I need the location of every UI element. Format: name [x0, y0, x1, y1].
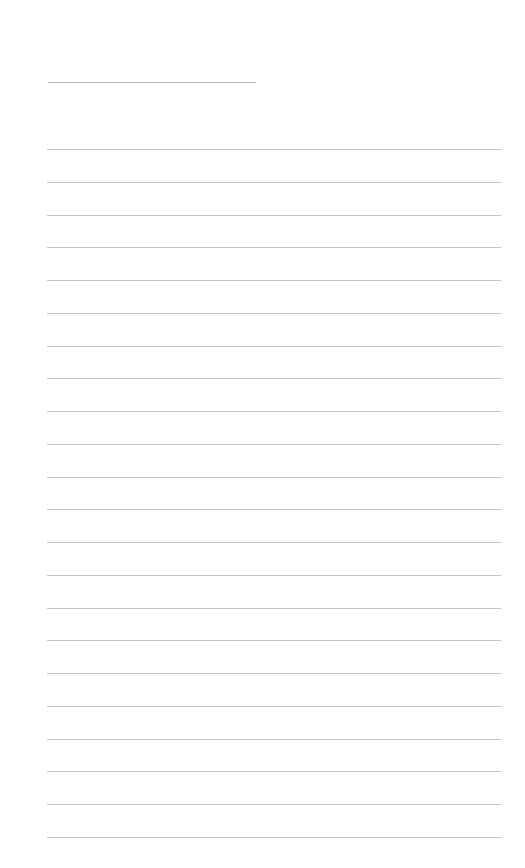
ruled-line [47, 247, 501, 280]
ruled-line [47, 640, 501, 673]
ruled-line [47, 182, 501, 215]
ruled-line [47, 509, 501, 542]
ruled-line [47, 215, 501, 248]
ruled-line [47, 804, 501, 837]
ruled-line [47, 739, 501, 772]
ruled-line [47, 313, 501, 346]
ruled-lines-area [47, 149, 501, 868]
ruled-line [47, 346, 501, 379]
ruled-line [47, 477, 501, 510]
ruled-line [47, 280, 501, 313]
ruled-line [47, 378, 501, 411]
ruled-line [47, 706, 501, 739]
ruled-line [47, 542, 501, 575]
ruled-line [47, 149, 501, 182]
ruled-line [47, 771, 501, 804]
title-underline [48, 82, 256, 83]
ruled-line [47, 575, 501, 608]
ruled-line [47, 444, 501, 477]
ruled-line [47, 608, 501, 641]
ruled-line [47, 837, 501, 868]
ruled-line [47, 673, 501, 706]
ruled-line [47, 411, 501, 444]
